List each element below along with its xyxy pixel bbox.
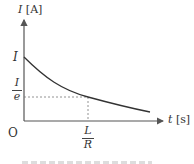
decay-graph xyxy=(0,0,194,164)
y-tick-decayed: I e xyxy=(10,77,24,103)
x-tick-tau-numerator: L xyxy=(81,125,95,137)
x-tick-tau: L R xyxy=(81,125,95,151)
x-axis-label: t [s] xyxy=(168,113,190,126)
origin-label: O xyxy=(8,126,18,140)
x-axis-unit: [s] xyxy=(176,113,190,126)
decay-curve xyxy=(24,57,150,112)
y-tick-decayed-numerator: I xyxy=(10,77,24,89)
y-axis-label: I [A] xyxy=(18,3,42,16)
x-tick-tau-denominator: R xyxy=(81,139,95,151)
x-axis-var: t xyxy=(168,113,172,126)
y-tick-decayed-denominator: e xyxy=(10,91,24,103)
y-axis-unit: [A] xyxy=(26,3,43,16)
y-tick-initial: I xyxy=(13,50,18,64)
caption-cropped xyxy=(22,161,152,164)
y-axis-var: I xyxy=(18,3,22,16)
